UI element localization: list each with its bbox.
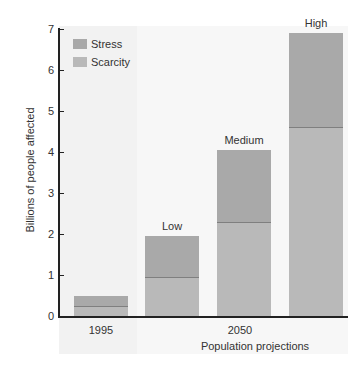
y-tick [59, 29, 64, 30]
y-tick-label: 2 [40, 228, 54, 240]
bar-medium [217, 150, 271, 316]
bar-segment-divider [145, 277, 199, 278]
x-group-label-2050: 2050 [200, 324, 280, 336]
y-tick-label: 5 [40, 105, 54, 117]
bar-segment-scarcity [74, 306, 128, 316]
bar-segment-stress [217, 150, 271, 222]
legend-item-stress: Stress [73, 39, 122, 49]
y-tick [59, 275, 64, 276]
bar-segment-scarcity [289, 127, 343, 316]
bar-segment-divider [74, 306, 128, 307]
bar-low [145, 236, 199, 316]
y-tick [59, 111, 64, 112]
bar-segment-stress [74, 296, 128, 306]
y-tick-label: 7 [40, 23, 54, 35]
bar-annotation: Low [132, 220, 212, 232]
bar-segment-divider [217, 222, 271, 223]
y-tick-label: 6 [40, 64, 54, 76]
bar-segment-stress [145, 236, 199, 277]
scarcity-swatch-icon [73, 57, 87, 67]
bar-annotation: High [276, 17, 356, 29]
legend-label: Scarcity [91, 56, 130, 68]
y-tick [59, 193, 64, 194]
bar-1995 [74, 296, 128, 317]
bar-segment-stress [289, 33, 343, 127]
y-tick [59, 70, 64, 71]
bar-high [289, 33, 343, 316]
bar-segment-scarcity [217, 222, 271, 316]
bar-segment-divider [289, 127, 343, 128]
y-tick [59, 152, 64, 153]
y-tick-label: 4 [40, 146, 54, 158]
y-axis-line [58, 28, 60, 317]
y-tick [59, 316, 64, 317]
y-tick [59, 234, 64, 235]
y-tick-label: 0 [40, 310, 54, 322]
stress-swatch-icon [73, 39, 87, 49]
x-group-label-1995: 1995 [74, 324, 128, 336]
y-tick-label: 1 [40, 269, 54, 281]
legend-label: Stress [91, 38, 122, 50]
bar-annotation: Medium [204, 134, 284, 146]
x-axis-line [58, 316, 348, 318]
legend-item-scarcity: Scarcity [73, 57, 130, 67]
x-axis-title: Population projections [180, 340, 330, 352]
y-axis-title: Billions of people affected [24, 107, 36, 232]
y-tick-label: 3 [40, 187, 54, 199]
bar-segment-scarcity [145, 277, 199, 316]
